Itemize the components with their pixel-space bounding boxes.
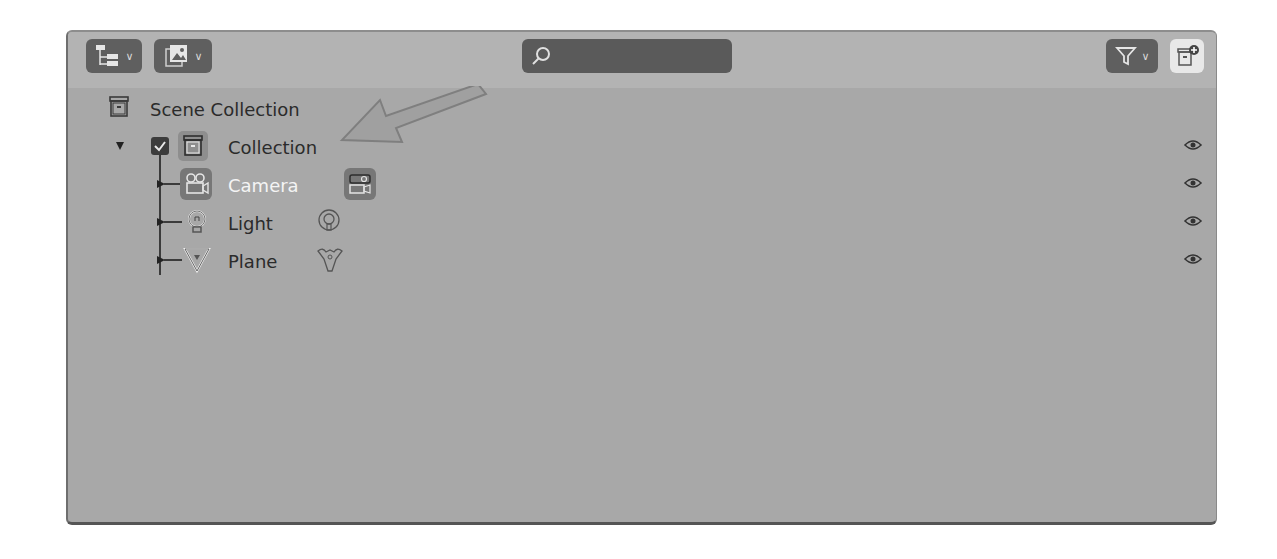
new-collection-button[interactable] <box>1170 39 1204 73</box>
collection-label: Collection <box>228 137 317 158</box>
filter-icon <box>1114 44 1138 68</box>
tree-row-camera[interactable]: Camera <box>68 166 1216 202</box>
plane-label: Plane <box>228 251 277 272</box>
scene-collection-label: Scene Collection <box>150 99 300 120</box>
search-input[interactable] <box>522 39 732 73</box>
tree-connector-line <box>164 221 182 223</box>
collection-icon <box>178 131 208 161</box>
tree-row-plane[interactable]: Plane <box>68 242 1216 278</box>
mesh-data-icon[interactable] <box>315 245 345 275</box>
view-layer-dropdown[interactable]: ∨ <box>154 39 212 73</box>
camera-data-icon <box>344 168 376 200</box>
new-collection-icon <box>1175 43 1201 69</box>
camera-label: Camera <box>228 175 299 196</box>
checkmark-icon <box>151 137 169 155</box>
tree-row-light[interactable]: Light <box>68 204 1216 240</box>
camera-object-icon-wrap <box>180 168 212 200</box>
tree-connector-line <box>164 259 182 261</box>
filter-dropdown[interactable]: ∨ <box>1106 39 1158 73</box>
collection-checkbox[interactable] <box>151 137 169 155</box>
mesh-object-icon <box>182 245 212 275</box>
visibility-eye-icon[interactable] <box>1184 176 1202 190</box>
search-icon <box>530 45 552 67</box>
collection-icon-wrap <box>178 131 208 161</box>
display-mode-dropdown[interactable]: ∨ <box>86 39 142 73</box>
chevron-down-icon: ∨ <box>125 50 133 63</box>
outliner-header: ∨ ∨ ∨ <box>68 32 1216 88</box>
light-object-icon <box>182 207 212 237</box>
visibility-eye-icon[interactable] <box>1184 252 1202 266</box>
scene-collection-icon <box>107 95 131 119</box>
light-data-icon[interactable] <box>314 207 344 237</box>
tree-row-scene-collection[interactable]: Scene Collection <box>68 90 1216 126</box>
chevron-down-icon: ∨ <box>1141 50 1149 63</box>
chevron-down-icon: ∨ <box>194 50 202 63</box>
tree-row-collection[interactable]: Collection <box>68 128 1216 164</box>
camera-data-icon-wrap[interactable] <box>344 168 376 200</box>
light-label: Light <box>228 213 273 234</box>
outliner-panel: ∨ ∨ ∨ <box>66 30 1217 525</box>
outliner-display-mode-icon <box>94 43 122 69</box>
camera-object-icon <box>180 168 212 200</box>
visibility-eye-icon[interactable] <box>1184 138 1202 152</box>
image-layers-icon <box>163 43 191 69</box>
expand-triangle-icon[interactable] <box>115 141 125 151</box>
visibility-eye-icon[interactable] <box>1184 214 1202 228</box>
